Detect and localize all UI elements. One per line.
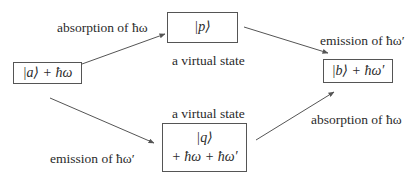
state-b-box: |b⟩ + ħω′ bbox=[323, 59, 393, 83]
state-a-label: |a⟩ + ħω bbox=[23, 64, 73, 83]
state-q-label: |q⟩ bbox=[196, 129, 212, 148]
state-a-box: |a⟩ + ħω bbox=[13, 62, 82, 84]
arrow-a-to-p bbox=[82, 34, 165, 64]
state-b-label: |b⟩ + ħω′ bbox=[332, 62, 385, 81]
state-p-label: |p⟩ bbox=[194, 18, 210, 37]
arrow-a-to-q bbox=[50, 98, 154, 143]
state-q-box: |q⟩ + ħω + ħω′ bbox=[162, 123, 247, 172]
edge-label-q-to-b: absorption of ħω bbox=[311, 113, 402, 127]
arrow-p-to-b bbox=[244, 27, 328, 53]
state-q-caption: a virtual state bbox=[172, 107, 245, 121]
state-p-box: |p⟩ bbox=[167, 12, 238, 43]
state-p-caption: a virtual state bbox=[172, 54, 245, 68]
edge-label-p-to-b: emission of ħω′ bbox=[320, 34, 405, 48]
edge-label-a-to-q: emission of ħω′ bbox=[50, 152, 135, 166]
edge-label-a-to-p: absorption of ħω bbox=[57, 21, 148, 35]
state-q-energy: + ħω + ħω′ bbox=[171, 148, 237, 167]
